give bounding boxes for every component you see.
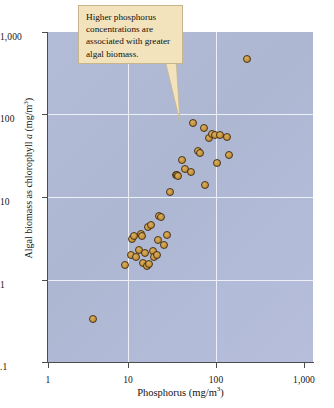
y-axis-title: Algal biomass as chlorophyll a (mg/m3) xyxy=(22,58,34,298)
plot-area xyxy=(48,32,313,362)
gridline-y-100 xyxy=(48,114,313,115)
y-tick-label-100: 100 xyxy=(0,114,15,124)
y-tick-1000 xyxy=(42,32,48,33)
x-axis-title-tail: ) xyxy=(220,387,224,398)
callout-line-1: Higher phosphorus xyxy=(86,11,176,23)
x-axis-title: Phosphorus (mg/m3) xyxy=(48,385,313,398)
x-tick-1 xyxy=(48,362,49,368)
data-point xyxy=(145,260,153,268)
data-point xyxy=(178,156,186,164)
x-tick-1000 xyxy=(304,362,305,368)
data-point xyxy=(153,251,161,259)
data-point xyxy=(243,55,251,63)
data-point xyxy=(225,151,233,159)
data-point xyxy=(163,231,171,239)
data-point xyxy=(147,221,155,229)
callout-line-4: algal biomass. xyxy=(86,48,176,60)
data-point xyxy=(89,315,97,323)
data-point xyxy=(223,133,231,141)
y-axis-title-pre: Algal biomass as chlorophyll xyxy=(23,139,34,258)
callout-line-2: concentrations are xyxy=(86,23,176,35)
data-point xyxy=(138,232,146,240)
x-tick-label-100: 100 xyxy=(209,375,224,385)
gridline-y-10 xyxy=(48,197,313,198)
data-point xyxy=(201,181,209,189)
data-point xyxy=(189,119,197,127)
y-tick-label-1000-wrap: 1,000 xyxy=(0,26,40,44)
y-axis-title-italic: a xyxy=(23,134,34,139)
annotation-callout: Higher phosphorus concentrations are ass… xyxy=(78,5,183,64)
data-point xyxy=(141,249,149,257)
data-point xyxy=(196,149,204,157)
scatter-plot-figure: 1,000 100 10 1 .1 1 10 100 1,000 Algal b… xyxy=(0,0,334,408)
x-tick-label-1: 1 xyxy=(46,375,51,385)
x-tick-100 xyxy=(216,362,217,368)
x-tick-label-1000: 1,000 xyxy=(293,375,315,385)
data-point xyxy=(187,168,195,176)
callout-line-3: associated with greater xyxy=(86,35,176,47)
x-tick-label-10: 10 xyxy=(123,375,133,385)
y-tick-label-1: 1 xyxy=(0,280,5,290)
y-tick-label-1000: 1,000 xyxy=(0,32,22,42)
y-tick-10 xyxy=(42,197,48,198)
x-axis-line xyxy=(47,362,314,363)
y-tick-100 xyxy=(42,114,48,115)
y-tick-1 xyxy=(42,280,48,281)
y-axis-title-superscript: 3 xyxy=(22,101,30,105)
y-axis-title-post: (mg/m xyxy=(23,105,34,134)
data-point xyxy=(200,124,208,132)
data-point xyxy=(174,172,182,180)
gridline-y-1 xyxy=(48,280,313,281)
data-point xyxy=(166,188,174,196)
data-point xyxy=(157,213,165,221)
x-tick-10 xyxy=(128,362,129,368)
data-point xyxy=(213,159,221,167)
y-tick-label-10: 10 xyxy=(0,197,10,207)
data-point xyxy=(121,261,129,269)
x-axis-title-text: Phosphorus (mg/m xyxy=(137,387,217,398)
data-point xyxy=(160,241,168,249)
y-tick-label-point1: .1 xyxy=(0,362,7,372)
y-axis-title-tail: ) xyxy=(23,98,34,101)
